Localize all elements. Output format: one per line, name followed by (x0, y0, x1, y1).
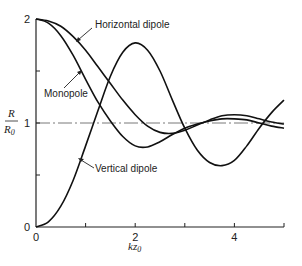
y-tick-label: 0 (24, 221, 30, 233)
series-monopole (36, 19, 284, 147)
arrow-line (78, 28, 92, 40)
series-vertical-dipole (36, 43, 284, 227)
chart: 024 012 R R0 kz0 Horizontal dipole Monop… (0, 0, 302, 266)
annotation-monopole: Monopole (44, 70, 88, 99)
series-horizontal-dipole (36, 19, 284, 134)
y-tick-label: 2 (24, 13, 30, 25)
x-tick-label: 4 (231, 231, 237, 243)
arrow-line (81, 160, 94, 168)
annotation-horizontal-dipole: Horizontal dipole (76, 19, 170, 42)
annotation-vertical-dipole-label: Vertical dipole (95, 163, 158, 174)
y-axis-title-denominator: R0 (3, 123, 15, 137)
y-ticks: 012 (24, 13, 40, 233)
y-axis-title: R R0 (3, 107, 18, 137)
annotation-horizontal-dipole-label: Horizontal dipole (95, 19, 170, 30)
annotation-monopole-label: Monopole (44, 88, 88, 99)
x-tick-label: 0 (33, 231, 39, 243)
y-axis-title-numerator: R (7, 107, 15, 119)
x-axis-title: kz0 (128, 240, 141, 254)
y-tick-label: 1 (24, 117, 30, 129)
x-ticks: 024 (33, 223, 284, 243)
annotation-vertical-dipole: Vertical dipole (78, 158, 158, 174)
arrow-line (64, 72, 80, 88)
